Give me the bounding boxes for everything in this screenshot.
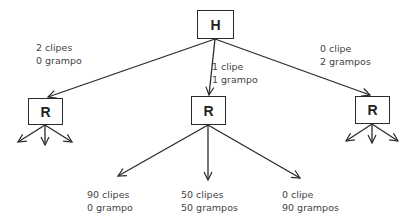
edge-label-right-line2: 2 grampos <box>320 55 371 68</box>
edge-label-middle-line2: 1 grampo <box>212 73 258 86</box>
child-node-right-label: R <box>367 102 377 118</box>
edge-label-left: 2 clipes 0 grampo <box>36 41 82 67</box>
outcome-label-1: 90 clipes 0 grampo <box>87 188 133 214</box>
outcome-label-1-line1: 90 clipes <box>87 188 133 201</box>
outcome-label-1-line2: 0 grampo <box>87 201 133 214</box>
outcome-label-3: 0 clipe 90 grampos <box>282 188 339 214</box>
edge-label-left-line1: 2 clipes <box>36 41 82 54</box>
edge-left-r-out-1 <box>18 125 45 142</box>
child-node-left-label: R <box>40 104 50 120</box>
outcome-label-3-line1: 0 clipe <box>282 188 339 201</box>
outcome-label-2-line2: 50 grampos <box>181 201 238 214</box>
edge-label-left-line2: 0 grampo <box>36 54 82 67</box>
outcome-label-3-line2: 90 grampos <box>282 201 339 214</box>
edge-label-middle-line1: 1 clipe <box>212 60 258 73</box>
edge-left-r-out-3 <box>45 125 72 142</box>
child-node-middle: R <box>191 96 226 125</box>
edge-right-r-out-1 <box>346 124 372 141</box>
outcome-label-2: 50 clipes 50 grampos <box>181 188 238 214</box>
child-node-left: R <box>28 98 63 125</box>
edge-label-right-line1: 0 clipe <box>320 42 371 55</box>
child-node-right: R <box>355 96 390 124</box>
child-node-middle-label: R <box>203 103 213 119</box>
edge-middle-r-out-1 <box>118 125 208 176</box>
edge-middle-r-out-3 <box>208 125 300 178</box>
root-node-label: H <box>210 17 220 33</box>
outcome-label-2-line1: 50 clipes <box>181 188 238 201</box>
root-node-h: H <box>197 10 234 39</box>
edge-right-r-out-3 <box>372 124 398 141</box>
edge-label-right: 0 clipe 2 grampos <box>320 42 371 68</box>
edge-label-middle: 1 clipe 1 grampo <box>212 60 258 86</box>
